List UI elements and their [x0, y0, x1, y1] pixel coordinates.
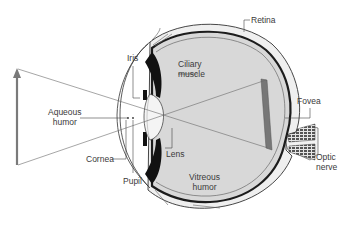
label-aqueous-line1: Aqueous	[48, 107, 82, 117]
label-optic-line1: Optic	[316, 152, 337, 162]
label-retina: Retina	[251, 15, 276, 25]
label-ciliary-muscle: Ciliary muscle	[178, 59, 205, 79]
label-vitreous-line2: humor	[189, 182, 220, 192]
label-cornea: Cornea	[86, 154, 114, 164]
label-aqueous-humor: Aqueous humor	[48, 107, 82, 127]
label-optic-line2: nerve	[316, 162, 337, 172]
label-ciliary-line1: Ciliary	[178, 59, 205, 69]
label-vitreous-humor: Vitreous humor	[189, 172, 220, 192]
label-iris: Iris	[127, 53, 138, 63]
label-lens: Lens	[166, 149, 184, 159]
label-pupil: Pupil	[123, 176, 142, 186]
label-vitreous-line1: Vitreous	[189, 172, 220, 182]
label-fovea: Fovea	[297, 96, 321, 106]
label-aqueous-line2: humor	[48, 117, 82, 127]
pupil-markers	[127, 117, 134, 119]
object-arrow	[13, 68, 21, 165]
label-optic-nerve: Optic nerve	[316, 152, 337, 172]
label-ciliary-line2: muscle	[178, 69, 205, 79]
